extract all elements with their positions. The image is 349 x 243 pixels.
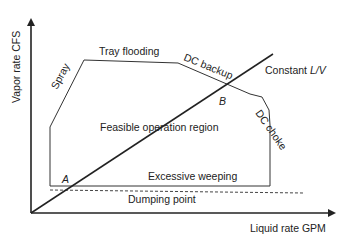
constant-lv-line [31,54,273,213]
constant-lv-label: Constant L/V [265,64,327,76]
constant-lv-ratio: L/V [310,64,327,76]
point-a-label: A [61,173,69,185]
excessive-weeping-label: Excessive weeping [148,170,237,182]
x-axis-label: Liquid rate GPM [250,222,326,234]
feasible-region-label: Feasible operation region [100,121,219,133]
dc-backup-label: DC backup [182,51,235,82]
operating-window-diagram: Vapor rate CFS Liquid rate GPM Spray Tra… [0,0,349,243]
spray-label: Spray [48,60,72,91]
tray-flooding-label: Tray flooding [99,45,159,57]
constant-lv-prefix: Constant [265,64,310,76]
point-b-label: B [219,95,226,107]
dc-choke-label: DC choke [253,107,289,152]
dumping-point-label: Dumping point [128,193,196,205]
y-axis-label: Vapor rate CFS [10,31,22,103]
